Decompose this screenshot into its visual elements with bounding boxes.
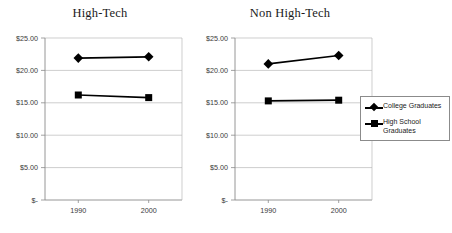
ytick-label-0: $-: [222, 196, 229, 205]
xtick-label-1990: 1990: [70, 206, 86, 215]
series-segment: [268, 100, 338, 101]
data-point-marker: [75, 92, 82, 99]
ytick-label-5: $5.00: [210, 163, 228, 172]
ytick-label-20: $20.00: [16, 66, 38, 75]
ytick-label-15: $15.00: [16, 98, 38, 107]
series-college-graduates: [73, 52, 153, 63]
data-point-marker: [334, 51, 344, 61]
series-high-school-graduates: [75, 92, 152, 102]
ytick-label-0: $-: [32, 196, 39, 205]
legend-label-college-graduates: College Graduates: [383, 102, 441, 111]
square-marker-icon: [365, 119, 383, 128]
ytick-label-25: $25.00: [206, 34, 228, 43]
data-point-marker: [335, 97, 342, 104]
ytick-label-20: $20.00: [206, 66, 228, 75]
xtick-label-2000: 2000: [331, 206, 347, 215]
data-point-marker: [145, 94, 152, 101]
series-segment: [268, 56, 338, 64]
series-segment: [78, 57, 148, 58]
ytick-label-10: $10.00: [206, 131, 228, 140]
chart-legend: College Graduates High School Graduates: [360, 96, 450, 141]
plot-area-high-tech: $25.00 $20.00 $15.00 $10.00 $5.00 $- 199…: [0, 0, 200, 233]
xtick-label-2000: 2000: [141, 206, 157, 215]
xtick-label-1990: 1990: [260, 206, 276, 215]
ytick-label-15: $15.00: [206, 98, 228, 107]
chart-panel-high-tech: High-Tech $25.00 $20.00: [0, 0, 200, 233]
ytick-label-25: $25.00: [16, 34, 38, 43]
legend-label-high-school-graduates: High School Graduates: [383, 118, 421, 135]
data-point-marker: [263, 59, 273, 69]
ytick-label-10: $10.00: [16, 131, 38, 140]
data-point-marker: [144, 52, 154, 62]
ytick-label-5: $5.00: [20, 163, 38, 172]
legend-item-college-graduates: College Graduates: [365, 102, 441, 112]
diamond-marker-icon: [365, 103, 383, 112]
series-segment: [78, 95, 148, 98]
figure-canvas: High-Tech $25.00 $20.00: [0, 0, 452, 233]
data-point-marker: [73, 53, 83, 63]
data-point-marker: [265, 97, 272, 104]
series-high-school-graduates: [265, 97, 342, 105]
legend-item-high-school-graduates: High School Graduates: [365, 118, 421, 135]
series-college-graduates: [263, 51, 343, 69]
